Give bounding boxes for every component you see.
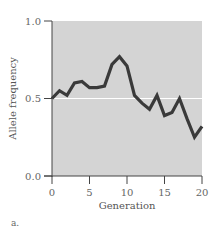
svg-text:5: 5 — [86, 187, 92, 198]
svg-text:20: 20 — [196, 187, 209, 198]
svg-text:0.5: 0.5 — [25, 93, 41, 104]
svg-text:0: 0 — [49, 187, 55, 198]
svg-text:0.0: 0.0 — [25, 171, 41, 182]
y-axis-title: Allele frequency — [7, 57, 18, 141]
panel-label: a. — [11, 218, 19, 228]
svg-text:15: 15 — [158, 187, 171, 198]
svg-text:10: 10 — [121, 187, 134, 198]
x-axis-title: Generation — [99, 200, 156, 211]
svg-text:1.0: 1.0 — [25, 16, 41, 27]
allele-frequency-chart: 0.00.51.005101520 Generation Allele freq… — [0, 0, 220, 235]
